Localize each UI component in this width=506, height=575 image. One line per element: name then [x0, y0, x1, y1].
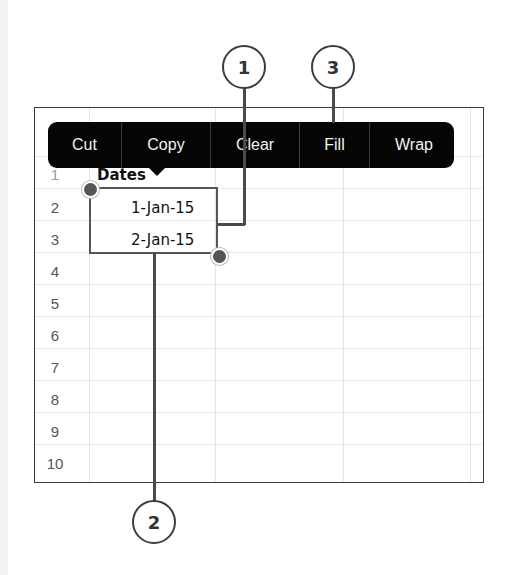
grid-row-line: [35, 316, 483, 317]
callout-2-line: [153, 253, 156, 503]
menu-fill[interactable]: Fill: [300, 122, 370, 168]
row-header-2[interactable]: 2: [35, 199, 75, 216]
row-header-4[interactable]: 4: [35, 263, 75, 280]
row-header-1[interactable]: 1: [35, 166, 75, 183]
menu-pointer-arrow: [148, 167, 166, 176]
context-menu: Cut Copy Clear Fill Wrap: [48, 122, 454, 168]
row-header-5[interactable]: 5: [35, 295, 75, 312]
row-header-6[interactable]: 6: [35, 327, 75, 344]
row-header-7[interactable]: 7: [35, 359, 75, 376]
grid-row-line: [35, 348, 483, 349]
callout-3: 3: [311, 45, 355, 89]
grid-row-line: [35, 284, 483, 285]
callout-3-line: [332, 88, 335, 123]
grid-row-line: [35, 380, 483, 381]
row-header-9[interactable]: 9: [35, 423, 75, 440]
page-margin-strip: [0, 0, 8, 575]
grid-col-line: [470, 108, 471, 482]
menu-cut[interactable]: Cut: [48, 122, 122, 168]
selection-handle-top-left[interactable]: [82, 181, 99, 198]
menu-clear[interactable]: Clear: [211, 122, 300, 168]
row-header-8[interactable]: 8: [35, 391, 75, 408]
cell-a1[interactable]: Dates: [97, 166, 146, 184]
callout-1-line: [218, 223, 245, 226]
row-header-3[interactable]: 3: [35, 231, 75, 248]
callout-1-line: [243, 88, 246, 225]
row-header-10[interactable]: 10: [35, 455, 75, 472]
cell-selection: [89, 187, 218, 254]
grid-row-line: [35, 444, 483, 445]
grid-row-line: [35, 412, 483, 413]
menu-wrap[interactable]: Wrap: [370, 122, 458, 168]
selection-handle-bottom-right[interactable]: [211, 248, 228, 265]
callout-2: 2: [132, 500, 176, 544]
menu-copy[interactable]: Copy: [122, 122, 211, 168]
callout-1: 1: [222, 45, 266, 89]
